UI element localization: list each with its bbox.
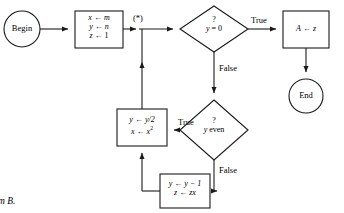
decrement-node-shape [160,174,210,208]
junction-marker-label: (*) [133,13,143,23]
figure-caption: m B. [0,196,15,206]
assign-a-node-shape [283,11,329,48]
init-node-shape [75,11,123,48]
flowchart-vector-layer [0,0,344,213]
edge-label-even-false: False [219,165,237,175]
edge-label-even-true: True [178,117,194,127]
edge-label-zero-true: True [251,15,267,25]
edge-label-zero-false: False [219,63,237,73]
flowchart-canvas: Begin x ← m y ← n z ← 1 ? y = 0 A ← z En… [0,0,344,213]
end-node-shape [289,79,323,113]
test-zero-node-shape [180,6,248,52]
begin-node-shape [4,11,40,47]
test-even-node-shape [180,100,248,160]
halve-node-shape [117,109,167,146]
